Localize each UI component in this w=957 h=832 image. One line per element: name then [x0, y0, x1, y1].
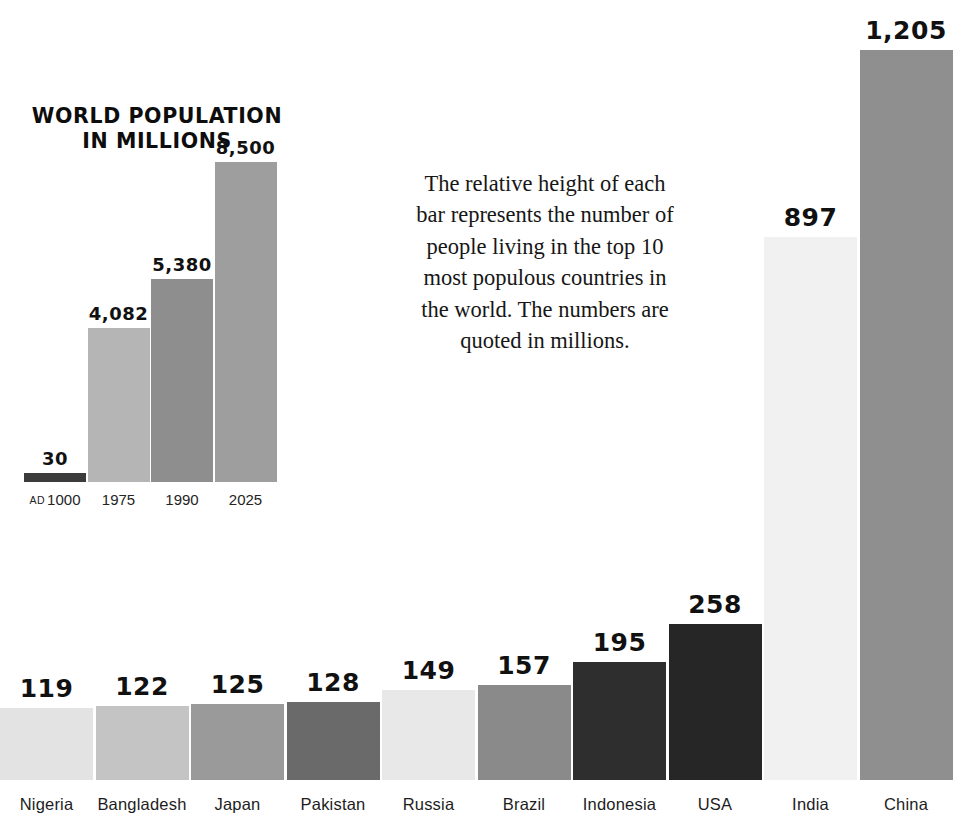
- inset-bar-value-2025: 8,500: [209, 137, 283, 158]
- bar-value-japan: 125: [191, 670, 284, 699]
- bar-label-pakistan: Pakistan: [287, 795, 380, 814]
- bar-brazil: [478, 685, 571, 780]
- bar-label-brazil: Brazil: [478, 795, 571, 814]
- bar-label-usa: USA: [669, 795, 762, 814]
- bar-value-india: 897: [764, 203, 857, 232]
- bar-label-indonesia: Indonesia: [573, 795, 666, 814]
- world-population-history-chart: WORLD POPULATION IN MILLIONS 30AD10004,0…: [14, 104, 304, 544]
- bar-nigeria: [0, 708, 93, 780]
- bar-value-usa: 258: [669, 590, 762, 619]
- inset-label-year: 1975: [102, 491, 135, 508]
- inset-bar-value-1000: 30: [18, 448, 92, 469]
- bar-value-indonesia: 195: [573, 628, 666, 657]
- inset-bar-1975: [88, 328, 150, 482]
- bar-russia: [382, 690, 475, 780]
- inset-bar-2025: [215, 162, 277, 482]
- inset-bar-value-1975: 4,082: [82, 303, 156, 324]
- bar-label-japan: Japan: [191, 795, 284, 814]
- inset-label-year: 1000: [47, 491, 80, 508]
- bar-pakistan: [287, 702, 380, 780]
- inset-label-era: AD: [30, 494, 46, 506]
- inset-bar-1000: [24, 473, 86, 482]
- bar-value-bangladesh: 122: [96, 672, 189, 701]
- bar-japan: [191, 704, 284, 780]
- bar-value-russia: 149: [382, 656, 475, 685]
- bar-label-india: India: [764, 795, 857, 814]
- bar-label-bangladesh: Bangladesh: [96, 795, 189, 814]
- inset-title-line-1: WORLD POPULATION: [32, 104, 282, 128]
- inset-label-year: 1990: [165, 491, 198, 508]
- bar-usa: [669, 624, 762, 780]
- inset-bar-label-2025: 2025: [207, 491, 285, 508]
- bar-india: [764, 237, 857, 780]
- bar-label-russia: Russia: [382, 795, 475, 814]
- chart-caption: The relative height of each bar represen…: [408, 168, 682, 357]
- inset-label-year: 2025: [229, 491, 262, 508]
- bar-indonesia: [573, 662, 666, 780]
- bar-label-nigeria: Nigeria: [0, 795, 93, 814]
- inset-bar-value-1990: 5,380: [145, 254, 219, 275]
- bar-value-china: 1,205: [860, 16, 953, 45]
- bar-value-nigeria: 119: [0, 674, 93, 703]
- bar-label-china: China: [860, 795, 953, 814]
- bar-value-pakistan: 128: [287, 668, 380, 697]
- bar-bangladesh: [96, 706, 189, 780]
- bar-china: [860, 50, 953, 780]
- inset-bar-1990: [151, 279, 213, 482]
- bar-value-brazil: 157: [478, 651, 571, 680]
